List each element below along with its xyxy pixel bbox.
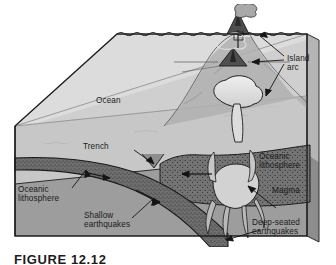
label-oceanic-lithosphere-left: Oceanic lithosphere (18, 185, 59, 204)
figure-caption: FIGURE 12.12 (14, 252, 106, 265)
label-oceanic-lithosphere-right: Oceanic lithosphere (259, 152, 300, 171)
label-shallow-earthquakes: Shallow earthquakes (84, 211, 130, 230)
label-island-arc: Island arc (287, 54, 309, 73)
figure-container: Ocean Island arc Trench Oceanic lithosph… (0, 0, 336, 265)
label-ocean: Ocean (96, 96, 121, 105)
diagram-artwork (14, 4, 322, 247)
subduction-zone-diagram (14, 4, 322, 247)
label-magma: Magma (272, 186, 300, 195)
label-trench: Trench (83, 142, 109, 151)
label-deep-seated-earthquakes: Deep-seated earthquakes (252, 218, 300, 237)
